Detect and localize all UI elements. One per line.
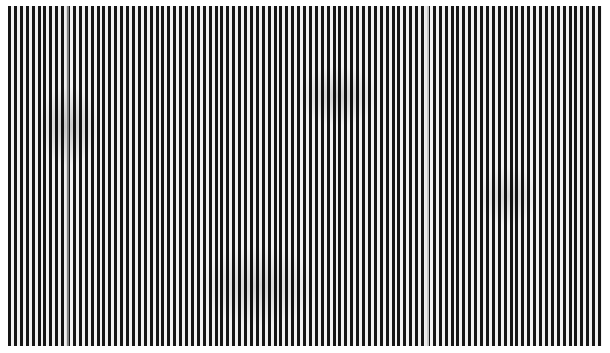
light-stripe-gap [425, 6, 429, 346]
stripe-pattern [8, 6, 602, 346]
light-stripe-gap-left [66, 6, 69, 346]
shading-overlay [8, 6, 602, 346]
